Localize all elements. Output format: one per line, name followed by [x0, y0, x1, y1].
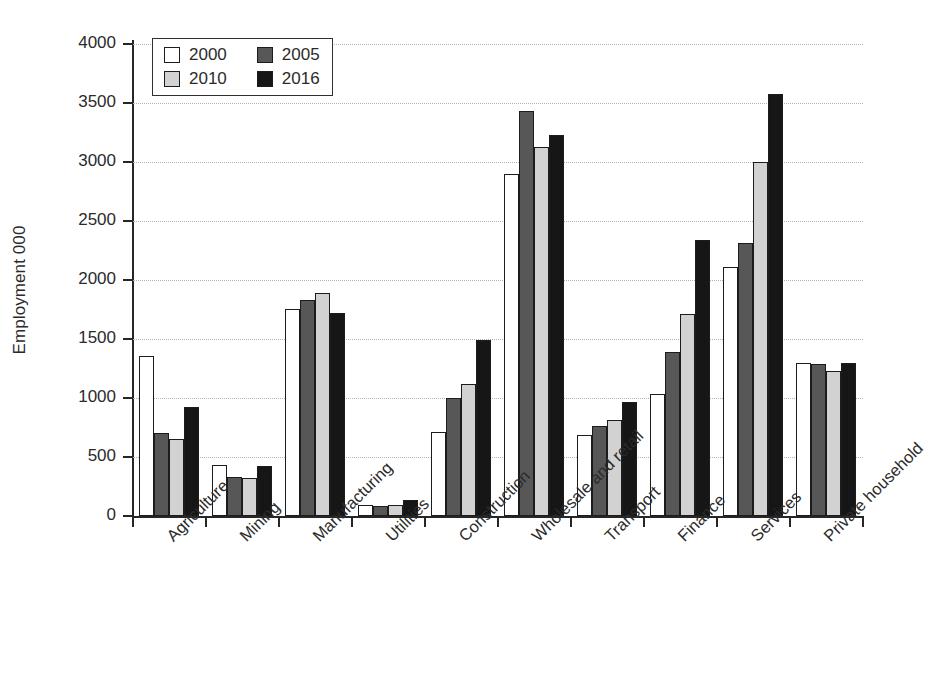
x-axis-tick-mark: [643, 517, 645, 527]
y-axis-tick-mark: [123, 397, 132, 399]
bar: [242, 478, 257, 516]
black-square-icon: [257, 71, 273, 87]
bar-group: [212, 44, 272, 516]
y-axis-tick-mark: [123, 43, 132, 45]
y-axis-tick-mark: [123, 338, 132, 340]
bar: [811, 364, 826, 516]
bar: [768, 94, 783, 516]
y-axis-tick-label: 0: [107, 505, 116, 525]
y-axis-tick-mark: [123, 220, 132, 222]
bar: [169, 439, 184, 516]
y-axis-tick-label: 1500: [78, 328, 116, 348]
chart-legend: 2000200520102016: [152, 38, 333, 96]
bar: [549, 135, 564, 516]
bar: [826, 371, 841, 516]
y-axis-tick-label: 4000: [78, 33, 116, 53]
bar: [139, 356, 154, 516]
x-axis-tick-mark: [278, 517, 280, 527]
y-axis-tick-mark: [123, 515, 132, 517]
bar: [519, 111, 534, 516]
y-axis-tick-mark: [123, 279, 132, 281]
bar-group: [504, 44, 564, 516]
bar-group: [358, 44, 418, 516]
bar: [285, 309, 300, 516]
x-axis-tick-mark: [570, 517, 572, 527]
bar: [680, 314, 695, 516]
bar-group: [285, 44, 345, 516]
bar: [300, 300, 315, 516]
legend-item: 2000: [164, 46, 227, 63]
legend-item: 2010: [164, 70, 227, 87]
light-gray-square-icon: [164, 71, 180, 87]
bar: [227, 477, 242, 516]
legend-label: 2016: [282, 70, 320, 87]
dark-gray-square-icon: [257, 47, 273, 63]
x-axis-tick-mark: [789, 517, 791, 527]
y-axis-tick-label: 3500: [78, 92, 116, 112]
bar: [446, 398, 461, 516]
bar: [695, 240, 710, 516]
bar-group: [139, 44, 199, 516]
bar-group: [796, 44, 856, 516]
y-axis-title: Employment 000: [10, 180, 30, 400]
bar: [665, 352, 680, 516]
bar: [738, 243, 753, 516]
bar: [534, 147, 549, 516]
x-axis-tick-mark: [497, 517, 499, 527]
y-axis-tick-label: 2000: [78, 269, 116, 289]
y-axis-tick-label: 3000: [78, 151, 116, 171]
bar: [431, 432, 446, 516]
bar: [330, 313, 345, 516]
legend-item: 2016: [257, 70, 320, 87]
bar: [476, 340, 491, 516]
y-axis-tick-label: 1000: [78, 387, 116, 407]
bar-group: [650, 44, 710, 516]
y-axis-tick-mark: [123, 456, 132, 458]
x-axis-tick-mark: [205, 517, 207, 527]
bar: [154, 433, 169, 516]
bar-group: [431, 44, 491, 516]
bar: [373, 506, 388, 516]
legend-label: 2005: [282, 46, 320, 63]
white-square-icon: [164, 47, 180, 63]
bar: [753, 162, 768, 516]
x-axis-tick-mark: [424, 517, 426, 527]
bar-group: [723, 44, 783, 516]
y-axis-tick-label: 2500: [78, 210, 116, 230]
bar: [315, 293, 330, 516]
bar: [841, 363, 856, 516]
y-axis-tick-mark: [123, 102, 132, 104]
bar: [461, 384, 476, 516]
legend-item: 2005: [257, 46, 320, 63]
legend-label: 2010: [189, 70, 227, 87]
x-axis-tick-mark: [132, 517, 134, 527]
y-axis-tick-label: 500: [88, 446, 116, 466]
bar: [723, 267, 738, 516]
bar: [504, 174, 519, 516]
x-axis-tick-mark: [862, 517, 864, 527]
y-axis-tick-mark: [123, 161, 132, 163]
x-axis-tick-mark: [716, 517, 718, 527]
x-axis-tick-mark: [351, 517, 353, 527]
legend-label: 2000: [189, 46, 227, 63]
